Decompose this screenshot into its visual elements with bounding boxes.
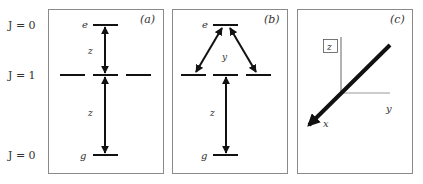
label-e: e	[82, 19, 88, 30]
panel-b-tag: (b)	[264, 13, 280, 26]
transition-right-arrow	[230, 28, 256, 72]
label-g: g	[201, 150, 207, 161]
panel-a: (a) e z z g	[49, 10, 164, 174]
panel-c: (c) z y x	[298, 10, 413, 174]
j-labels: J = 0 J = 1 J = 0	[7, 19, 36, 162]
label-g: g	[80, 150, 86, 161]
y-axis-label: y	[385, 103, 392, 114]
j-label-bottom: J = 0	[7, 149, 36, 162]
z-axis-label: z	[326, 42, 332, 52]
label-e: e	[202, 19, 208, 30]
x-axis-label: x	[323, 118, 329, 129]
label-upper-pol: y	[221, 52, 228, 62]
j-label-top: J = 0	[7, 19, 36, 32]
panel-c-frame	[298, 10, 413, 174]
panel-b-frame	[173, 10, 288, 174]
panel-b: (b) e y z g	[173, 10, 288, 174]
x-axis-arrow	[309, 45, 390, 125]
panel-a-tag: (a)	[140, 13, 155, 26]
j-label-middle: J = 1	[7, 69, 36, 82]
transition-left-arrow	[196, 28, 222, 72]
label-lower-pol: z	[87, 108, 93, 118]
level-diagram: J = 0 J = 1 J = 0 (a) e z z g (b) e y z …	[0, 0, 423, 184]
label-upper-pol: z	[87, 46, 93, 56]
panel-c-tag: (c)	[390, 13, 405, 26]
label-lower-pol: z	[209, 108, 215, 118]
